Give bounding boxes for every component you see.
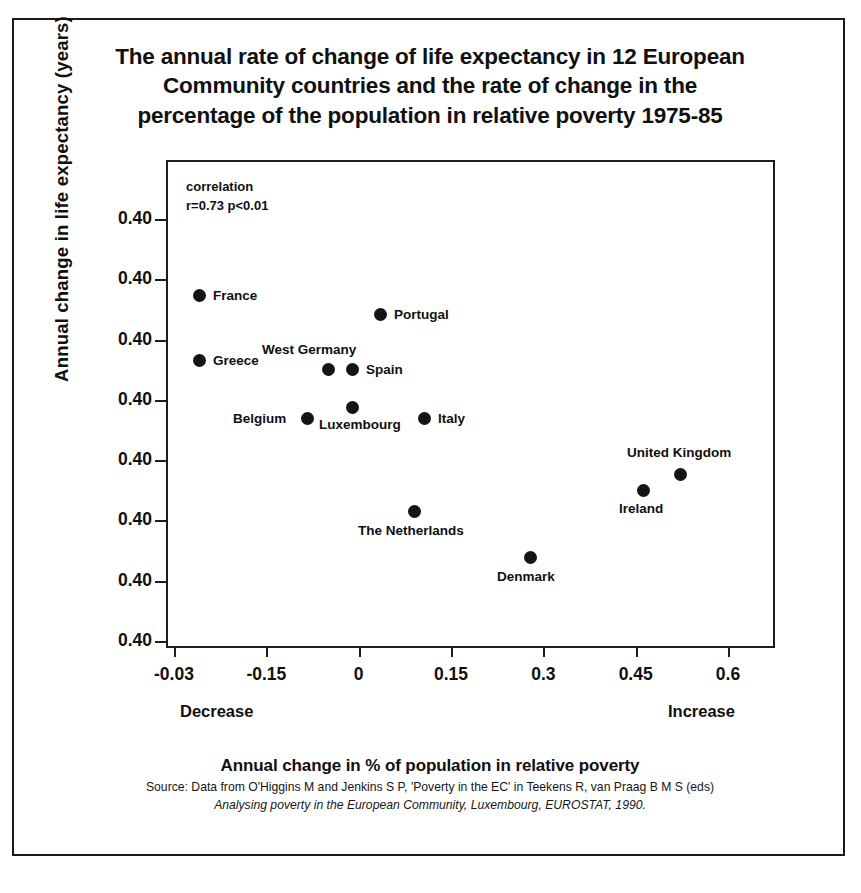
x-tick-label-0: -0.03: [129, 666, 219, 684]
chart-title-line-2: Community countries and the rate of chan…: [60, 71, 800, 100]
data-point-italy[interactable]: [418, 412, 431, 425]
x-tick-mark-3: [451, 648, 453, 657]
correlation-annotation: correlation r=0.73 p<0.01: [186, 178, 268, 216]
y-tick-mark-4: [155, 460, 166, 462]
figure-container: The annual rate of change of life expect…: [0, 0, 861, 893]
data-point-ireland[interactable]: [637, 484, 650, 497]
data-point-france[interactable]: [193, 289, 206, 302]
y-tick-label-3: 0.40: [90, 391, 152, 409]
data-point-label-the-netherlands: The Netherlands: [358, 524, 464, 538]
x-tick-label-3: 0.15: [406, 666, 496, 684]
data-point-label-france: France: [213, 289, 257, 303]
x-tick-mark-6: [728, 648, 730, 657]
correlation-value: r=0.73 p<0.01: [186, 197, 268, 216]
y-tick-mark-6: [155, 581, 166, 583]
source-note: Source: Data from O'Higgins M and Jenkin…: [40, 779, 820, 814]
data-point-luxembourg[interactable]: [346, 401, 359, 414]
data-point-label-luxembourg: Luxembourg: [319, 418, 401, 432]
data-point-label-greece: Greece: [213, 354, 259, 368]
x-tick-label-4: 0.3: [498, 666, 588, 684]
chart-title-line-1: The annual rate of change of life expect…: [60, 42, 800, 71]
y-tick-mark-1: [155, 279, 166, 281]
data-point-denmark[interactable]: [524, 551, 537, 564]
y-axis-title: Annual change in life expectancy (years): [51, 0, 73, 409]
data-point-label-united-kingdom: United Kingdom: [627, 446, 731, 460]
x-tick-label-2: 0: [314, 666, 404, 684]
x-tick-label-5: 0.45: [591, 666, 681, 684]
data-point-belgium[interactable]: [301, 412, 314, 425]
data-point-label-west-germany: West Germany: [262, 343, 356, 357]
x-tick-label-1: -0.15: [221, 666, 311, 684]
x-tick-mark-1: [266, 648, 268, 657]
data-point-west-germany[interactable]: [322, 363, 335, 376]
data-point-portugal[interactable]: [374, 308, 387, 321]
y-tick-mark-5: [155, 520, 166, 522]
source-line-1: Source: Data from O'Higgins M and Jenkin…: [40, 779, 820, 797]
x-axis-title: Annual change in % of population in rela…: [60, 756, 800, 776]
data-point-greece[interactable]: [193, 354, 206, 367]
y-tick-mark-3: [155, 400, 166, 402]
x-tick-mark-4: [543, 648, 545, 657]
x-axis-increase-label: Increase: [668, 702, 735, 721]
chart-title-line-3: percentage of the population in relative…: [60, 101, 800, 130]
y-tick-label-5: 0.40: [90, 511, 152, 529]
plot-area: [166, 160, 775, 648]
x-tick-label-6: 0.6: [683, 666, 773, 684]
y-tick-mark-2: [155, 340, 166, 342]
x-tick-mark-2: [359, 648, 361, 657]
data-point-label-ireland: Ireland: [619, 502, 663, 516]
data-point-spain[interactable]: [346, 363, 359, 376]
chart-title: The annual rate of change of life expect…: [60, 42, 800, 130]
source-line-2: Analysing poverty in the European Commun…: [40, 797, 820, 815]
y-tick-label-6: 0.40: [90, 572, 152, 590]
data-point-the-netherlands[interactable]: [408, 505, 421, 518]
data-point-label-belgium: Belgium: [233, 412, 286, 426]
y-tick-label-2: 0.40: [90, 331, 152, 349]
data-point-label-spain: Spain: [366, 363, 403, 377]
y-tick-mark-7: [155, 641, 166, 643]
data-point-label-italy: Italy: [438, 412, 465, 426]
y-tick-label-7: 0.40: [90, 632, 152, 650]
y-tick-mark-0: [155, 219, 166, 221]
x-tick-mark-0: [174, 648, 176, 657]
data-point-united-kingdom[interactable]: [674, 468, 687, 481]
y-tick-label-4: 0.40: [90, 451, 152, 469]
data-point-label-portugal: Portugal: [394, 308, 449, 322]
data-point-label-denmark: Denmark: [497, 570, 555, 584]
x-axis-decrease-label: Decrease: [180, 702, 253, 721]
correlation-label: correlation: [186, 178, 268, 197]
x-tick-mark-5: [636, 648, 638, 657]
y-tick-label-0: 0.40: [90, 210, 152, 228]
y-tick-label-1: 0.40: [90, 270, 152, 288]
